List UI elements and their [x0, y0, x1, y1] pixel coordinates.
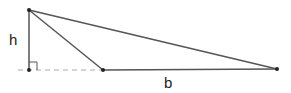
triangle-diagram: h b [0, 0, 291, 93]
base-label: b [164, 74, 172, 91]
base-right-point [275, 67, 279, 71]
apex-point [27, 8, 31, 12]
base-left-point [101, 68, 105, 72]
foot-point [27, 68, 31, 72]
base-side [103, 69, 277, 70]
height-label: h [9, 31, 17, 48]
